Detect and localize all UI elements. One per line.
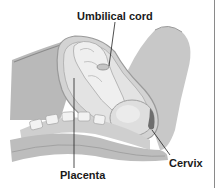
label-umbilical-cord: Umbilical cord: [77, 10, 153, 22]
label-cervix: Cervix: [169, 157, 203, 169]
label-placenta: Placenta: [60, 169, 105, 181]
diagram-frame: Umbilical cord Placenta Cervix: [0, 0, 218, 188]
right-border: [214, 0, 215, 188]
cord-loop: [97, 64, 109, 70]
